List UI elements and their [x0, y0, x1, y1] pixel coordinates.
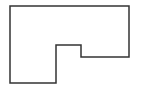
notched-polygon-shape	[10, 6, 129, 83]
diagram-canvas	[0, 0, 147, 93]
